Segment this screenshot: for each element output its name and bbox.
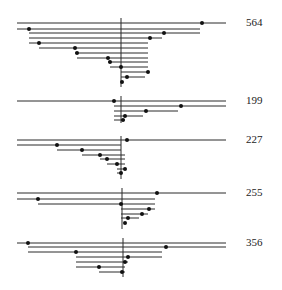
node-dot [155, 191, 159, 195]
node-dot [125, 75, 129, 79]
tree-group-227 [17, 136, 226, 179]
node-dot [119, 202, 123, 206]
node-dot [179, 104, 183, 108]
group-label-255: 255 [246, 187, 263, 198]
node-dot [112, 99, 116, 103]
node-dot [119, 171, 123, 175]
tree-group-564 [17, 18, 226, 87]
node-dot [146, 70, 150, 74]
node-dot [125, 138, 129, 142]
node-dot [36, 197, 40, 201]
group-label-227: 227 [246, 134, 263, 145]
tree-group-199 [17, 96, 226, 123]
node-dot [73, 46, 77, 50]
node-dot [55, 143, 59, 147]
group-label-356: 356 [246, 237, 263, 248]
node-dot [37, 41, 41, 45]
node-dot [105, 157, 109, 161]
node-dot [126, 216, 130, 220]
node-dot [123, 114, 127, 118]
node-dot [147, 207, 151, 211]
node-dot [106, 56, 110, 60]
node-dot [126, 255, 130, 259]
node-dot [162, 31, 166, 35]
node-dot [75, 51, 79, 55]
node-dot [97, 265, 101, 269]
node-dot [200, 21, 204, 25]
tree-group-356 [17, 238, 226, 277]
node-dot [164, 245, 168, 249]
tree-group-255 [17, 188, 226, 229]
group-label-199: 199 [246, 95, 263, 106]
node-dot [74, 250, 78, 254]
node-dot [108, 60, 112, 64]
node-dot [144, 109, 148, 113]
node-dot [119, 65, 123, 69]
node-dot [123, 167, 127, 171]
node-dot [123, 221, 127, 225]
node-dot [26, 241, 30, 245]
node-dot [98, 153, 102, 157]
node-dot [121, 118, 125, 122]
node-dot [120, 270, 124, 274]
line-tree-diagram [0, 0, 282, 290]
node-dot [120, 80, 124, 84]
node-dot [27, 27, 31, 31]
node-dot [140, 212, 144, 216]
node-dot [115, 162, 119, 166]
group-label-564: 564 [246, 17, 263, 28]
node-dot [123, 260, 127, 264]
node-dot [80, 148, 84, 152]
node-dot [148, 36, 152, 40]
